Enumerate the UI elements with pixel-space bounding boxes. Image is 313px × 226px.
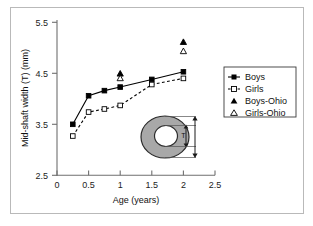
legend-label-boys: Boys (245, 72, 266, 82)
data-point-boys-5 (181, 69, 186, 74)
x-tick-label-2-5: 2.5 (209, 180, 222, 190)
data-point-girls-ohio-1 (180, 48, 186, 54)
x-axis-title: Age (years) (113, 195, 160, 205)
x-tick-label-1-5: 1.5 (146, 180, 159, 190)
y-axis (52, 20, 57, 176)
data-point-boys-4 (150, 77, 155, 82)
figure-container: 5.5 4.5 3.5 2.5 0 0.5 1 1.5 2 2.5 Age (y… (0, 0, 313, 226)
data-point-girls-2 (102, 107, 107, 112)
y-tick-label-4-5: 4.5 (35, 69, 48, 79)
y-tick-label-2-5: 2.5 (35, 171, 48, 181)
y-tick-label-3-5: 3.5 (35, 120, 48, 130)
x-axis (57, 171, 215, 176)
x-tick-label-2: 2 (181, 180, 186, 190)
chart-canvas: 5.5 4.5 3.5 2.5 0 0.5 1 1.5 2 2.5 Age (y… (0, 0, 313, 226)
x-tick-label-0-5: 0.5 (82, 180, 95, 190)
legend-label-girls: Girls (245, 84, 264, 94)
data-point-girls-0 (71, 134, 76, 139)
x-tick-label-1: 1 (118, 180, 123, 190)
legend: Boys Girls Boys-Ohio Girls-Ohio (224, 67, 296, 118)
data-point-girls-5 (181, 76, 186, 81)
series-girls-ohio (117, 48, 186, 81)
bone-medullary-cavity (155, 126, 178, 147)
data-point-girls-3 (118, 103, 123, 108)
x-tick-label-0: 0 (54, 180, 59, 190)
y-tick-label-5-5: 5.5 (35, 18, 48, 28)
filled-square-icon (232, 75, 237, 80)
inset-dimension-label: T (181, 132, 186, 139)
data-point-boys-0 (71, 122, 76, 127)
data-point-boys-2 (102, 88, 107, 93)
data-point-girls-4 (150, 82, 155, 87)
legend-label-girls-ohio: Girls-Ohio (245, 108, 286, 118)
data-point-boys-1 (86, 93, 91, 98)
data-point-girls-1 (86, 110, 91, 115)
bone-cross-section-inset: T (141, 116, 198, 158)
open-square-icon (232, 87, 237, 92)
data-point-boys-3 (118, 85, 123, 90)
legend-label-boys-ohio: Boys-Ohio (245, 96, 287, 106)
y-axis-title: Mid-shaft width (T) (mm) (20, 49, 30, 147)
series-boys-ohio (117, 39, 186, 76)
data-point-boys-ohio-1 (180, 39, 186, 45)
